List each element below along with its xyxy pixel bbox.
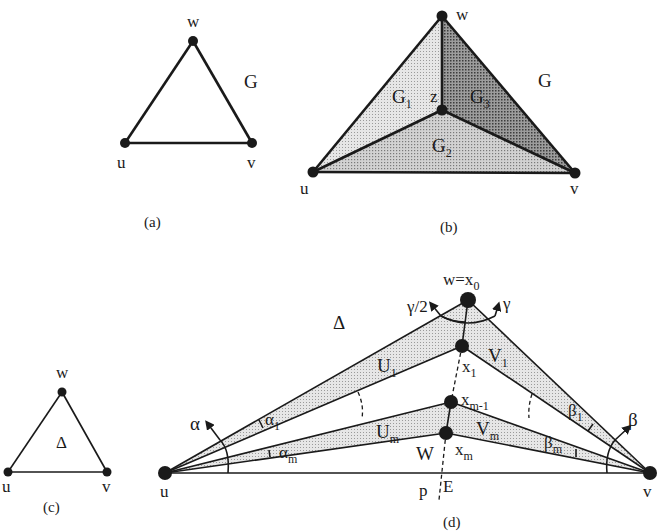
label-e: E <box>443 477 453 496</box>
label-w-region: W <box>416 443 434 464</box>
vertex-z-b <box>437 105 448 116</box>
label-u-c: u <box>2 477 11 496</box>
label-gamma: γ <box>502 294 511 313</box>
vertex-v-b <box>570 168 581 179</box>
fan-edges-d <box>165 300 650 473</box>
label-z-b: z <box>430 87 438 106</box>
vertex-x1 <box>455 339 469 353</box>
label-w-a: w <box>187 12 200 31</box>
arrow-beta <box>615 428 628 440</box>
label-p: p <box>419 481 428 500</box>
label-v-a: v <box>247 153 256 172</box>
panel-b: w z u v G G1 G2 G3 (b) <box>300 5 581 236</box>
dashed-arc-left <box>358 392 363 418</box>
tick-alpham <box>269 450 270 457</box>
label-beta: β <box>628 409 638 430</box>
vertex-u-c <box>4 468 13 477</box>
label-u-d: u <box>160 482 169 501</box>
label-gamma-half: γ/2 <box>406 297 428 316</box>
caption-d: (d) <box>443 514 461 531</box>
vertex-w-c <box>58 388 67 397</box>
label-w-c: w <box>56 363 69 382</box>
label-u-b: u <box>300 179 309 198</box>
vertex-w-a <box>188 36 198 46</box>
label-xm: xm <box>455 440 474 463</box>
panel-c: w u v Δ (c) <box>2 363 112 516</box>
triangle-a-edges <box>125 41 252 143</box>
label-w-b: w <box>456 5 469 24</box>
label-delta-d: Δ <box>333 312 345 333</box>
caption-a: (a) <box>144 214 161 231</box>
label-alpha: α <box>190 413 200 434</box>
vertex-w-b <box>437 11 448 22</box>
caption-c: (c) <box>43 499 60 516</box>
arrow-gamma-half <box>432 305 441 316</box>
dashed-arc-right <box>529 394 532 418</box>
caption-b: (b) <box>440 219 458 236</box>
vertex-v-a <box>247 138 257 148</box>
vertex-v-c <box>103 468 112 477</box>
vertex-xm <box>439 426 453 440</box>
figure-canvas: w u v G (a) w z u v G G1 G2 G3 (b) <box>0 0 666 532</box>
vertex-u-d <box>158 466 172 480</box>
label-delta-c: Δ <box>56 433 67 452</box>
label-w-x0: w=x0 <box>443 270 479 293</box>
label-v-c: v <box>102 477 111 496</box>
vertex-v-d <box>643 466 657 480</box>
vertex-u-a <box>120 138 130 148</box>
arrow-gamma <box>495 306 498 316</box>
label-v-d: v <box>643 482 652 501</box>
label-u-a: u <box>117 153 126 172</box>
label-v-b: v <box>570 179 579 198</box>
label-x1: x1 <box>462 357 477 380</box>
vertex-u-b <box>308 167 319 178</box>
arrow-alpha <box>208 424 220 440</box>
vertex-xm-1 <box>444 395 458 409</box>
vertex-x0 <box>460 292 476 308</box>
label-graph-g-a: G <box>244 71 258 92</box>
panel-a: w u v G (a) <box>117 12 258 231</box>
panel-d: w=x0 x1 xm-1 xm u v γ/2 γ α β α1 αm β1 β… <box>158 270 657 531</box>
label-graph-g-b: G <box>538 70 552 91</box>
triangle-c-edges <box>8 392 107 472</box>
